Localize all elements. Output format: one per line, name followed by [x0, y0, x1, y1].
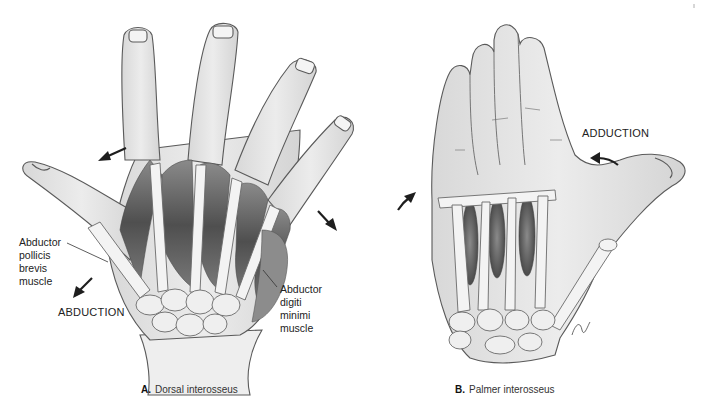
adm-line-2: digiti: [280, 296, 322, 309]
apb-line-4: muscle: [19, 275, 61, 288]
abductor-pollicis-brevis-label: Abductor pollicis brevis muscle: [19, 236, 61, 288]
caption-panel-b: B.Palmer interosseus: [455, 384, 555, 395]
adm-line-3: minimi: [280, 309, 322, 322]
adm-line-4: muscle: [280, 322, 322, 335]
adduction-label: ADDUCTION: [582, 127, 649, 140]
caption-a-title: Dorsal interosseus: [155, 384, 238, 395]
apb-line-1: Abductor: [19, 236, 61, 249]
palmar-interossei-muscles: [462, 196, 535, 285]
adm-line-1: Abductor: [280, 283, 322, 296]
caption-panel-a: A.Dorsal interosseus: [141, 384, 238, 395]
abductor-digiti-minimi-label: Abductor digiti minimi muscle: [280, 283, 322, 335]
apb-line-3: brevis: [19, 262, 61, 275]
artist-signature: [572, 322, 590, 335]
caption-b-title: Palmer interosseus: [469, 384, 555, 395]
abduction-label: ABDUCTION: [58, 306, 125, 319]
illustration: [0, 0, 701, 408]
apb-line-2: pollicis: [19, 249, 61, 262]
caption-a-letter: A.: [141, 384, 151, 395]
caption-b-letter: B.: [455, 384, 465, 395]
